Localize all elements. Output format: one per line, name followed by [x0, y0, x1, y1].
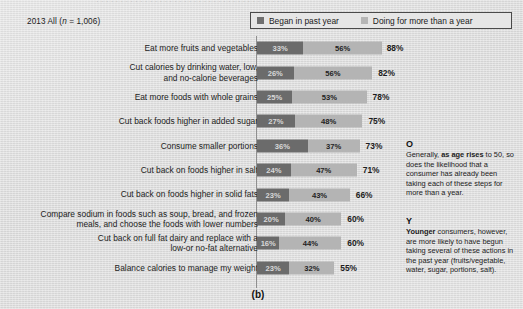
- bar-row-label: Eat more fruits and vegetables: [8, 43, 258, 53]
- bar-segment-doing-more-than-year: 48%: [295, 115, 362, 128]
- bar-segment-doing-more-than-year: 43%: [289, 188, 349, 201]
- stacked-bar: 36%37%: [257, 139, 360, 152]
- bar-total-label: 75%: [368, 116, 385, 126]
- stacked-bar: 20%40%: [257, 212, 341, 225]
- bar-row-label: Cut back foods higher in added sugar: [8, 116, 258, 126]
- series-subtitle-prefix: 2013 All (: [27, 17, 62, 26]
- stacked-bar: 16%44%: [257, 237, 341, 250]
- cutoff-text-top: · · · · · · · · · · · · · · · · · · · · …: [96, 0, 426, 6]
- bar-total-label: 60%: [347, 214, 364, 224]
- stacked-bar: 23%43%: [257, 188, 350, 201]
- bar-row-label: Cut calories by drinking water, low, and…: [8, 62, 258, 83]
- bar-row-label: Cut back on full fat dairy and replace w…: [8, 233, 258, 254]
- bar-segment-doing-more-than-year: 56%: [294, 66, 373, 79]
- bar-segment-began-past-year: 20%: [257, 212, 285, 225]
- legend-swatch-icon-dark: [257, 17, 264, 24]
- bar-total-label: 55%: [340, 263, 357, 273]
- bar-segment-began-past-year: 16%: [257, 237, 279, 250]
- bar-segment-began-past-year: 27%: [257, 115, 295, 128]
- annotation-younger-consumers: Y Younger consumers, however, are more l…: [406, 216, 518, 275]
- bar-total-label: 66%: [356, 190, 373, 200]
- bar-segment-doing-more-than-year: 56%: [303, 42, 382, 55]
- legend-label-doing-more-than-year: Doing for more than a year: [373, 16, 473, 26]
- legend-item-doing-more-than-year: Doing for more than a year: [361, 16, 473, 26]
- legend-swatch-icon-light: [361, 17, 368, 24]
- bar-total-label: 73%: [366, 141, 383, 151]
- bar-row-label: Consume smaller portions: [8, 141, 258, 151]
- annotation-body-o: Generally, as age rises to 50, so does t…: [406, 150, 518, 198]
- annotation-y-bold: Younger: [406, 227, 435, 236]
- bar-row-label: Eat more foods with whole grains: [8, 92, 258, 102]
- annotation-o-bold: as age rises: [441, 150, 483, 159]
- stacked-bar: 27%48%: [257, 115, 362, 128]
- annotation-marker-o: O: [406, 139, 518, 149]
- bar-segment-doing-more-than-year: 44%: [279, 237, 341, 250]
- annotation-body-y: Younger consumers, however, are more lik…: [406, 227, 518, 275]
- bar-total-label: 71%: [363, 165, 380, 175]
- annotation-marker-y: Y: [406, 216, 518, 226]
- bar-segment-doing-more-than-year: 40%: [285, 212, 341, 225]
- bar-segment-doing-more-than-year: 37%: [308, 139, 360, 152]
- bar-row: Cut back foods higher in added sugar27%4…: [0, 109, 523, 133]
- annotation-o-prefix: Generally,: [406, 150, 441, 159]
- bar-segment-doing-more-than-year: 47%: [291, 164, 357, 177]
- bar-segment-began-past-year: 26%: [257, 66, 294, 79]
- annotation-older-consumers: O Generally, as age rises to 50, so does…: [406, 139, 518, 198]
- bar-segment-doing-more-than-year: 53%: [292, 90, 366, 103]
- bar-row-label: Cut back on foods higher in solid fats: [8, 189, 258, 199]
- bar-segment-began-past-year: 25%: [257, 90, 292, 103]
- chart-legend: Began in past year Doing for more than a…: [250, 12, 512, 29]
- bar-segment-began-past-year: 33%: [257, 42, 303, 55]
- figure-caption: (b): [235, 289, 281, 300]
- stacked-bar: 26%56%: [257, 66, 372, 79]
- stacked-bar: 25%53%: [257, 90, 367, 103]
- figure-bar-chart: · · · · · · · · · · · · · · · · · · · · …: [0, 0, 523, 309]
- bar-row-label: Compare sodium in foods such as soup, br…: [8, 209, 258, 230]
- stacked-bar: 24%47%: [257, 164, 357, 177]
- bar-total-label: 78%: [373, 92, 390, 102]
- stacked-bar: 33%56%: [257, 42, 382, 55]
- bar-segment-doing-more-than-year: 32%: [289, 261, 334, 274]
- bar-segment-began-past-year: 23%: [257, 261, 289, 274]
- stacked-bar: 23%32%: [257, 261, 334, 274]
- series-subtitle: 2013 All (n = 1,006): [27, 17, 100, 26]
- bar-row: Eat more fruits and vegetables33%56%88%: [0, 36, 523, 60]
- legend-label-began-past-year: Began in past year: [269, 16, 339, 26]
- bar-segment-began-past-year: 24%: [257, 164, 291, 177]
- bar-total-label: 82%: [378, 68, 395, 78]
- bar-row: Eat more foods with whole grains25%53%78…: [0, 85, 523, 109]
- bar-segment-began-past-year: 36%: [257, 139, 308, 152]
- legend-item-began-past-year: Began in past year: [257, 16, 339, 26]
- bar-total-label: 60%: [347, 238, 364, 248]
- series-subtitle-suffix: = 1,006): [67, 17, 100, 26]
- bar-row: Cut calories by drinking water, low, and…: [0, 60, 523, 84]
- bar-row-label: Cut back on foods higher in salt: [8, 165, 258, 175]
- bar-row-label: Balance calories to manage my weight: [8, 263, 258, 273]
- bar-total-label: 88%: [387, 43, 404, 53]
- bar-segment-began-past-year: 23%: [257, 188, 289, 201]
